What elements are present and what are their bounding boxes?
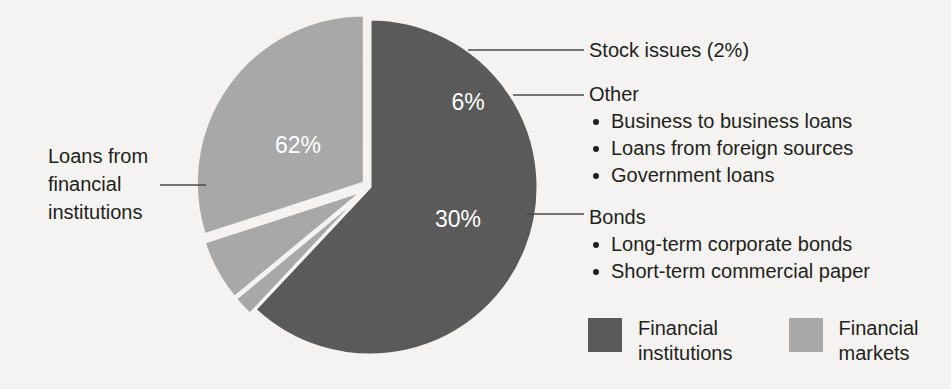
slice-label-institutions: 62% xyxy=(275,132,321,158)
list-item: Short-term commercial paper xyxy=(589,258,870,285)
legend-swatch-icon xyxy=(588,318,622,352)
list-item: Government loans xyxy=(589,162,853,189)
bullet-dot-icon xyxy=(593,242,599,248)
callout-other-list: Business to business loans Loans from fo… xyxy=(589,108,853,189)
chart-legend: Financial institutions Financial markets xyxy=(588,316,919,366)
callout-line-2: financial xyxy=(48,170,198,198)
slice-label-other: 6% xyxy=(451,89,484,115)
list-item-label: Long-term corporate bonds xyxy=(611,233,852,255)
list-item-label: Loans from foreign sources xyxy=(611,137,853,159)
callout-line-1: Loans from xyxy=(48,142,198,170)
callout-bonds-list: Long-term corporate bonds Short-term com… xyxy=(589,231,870,285)
callout-bonds-title: Bonds xyxy=(589,205,870,229)
callout-line-3: institutions xyxy=(48,198,198,226)
bullet-dot-icon xyxy=(593,146,599,152)
callout-bonds: Bonds Long-term corporate bonds Short-te… xyxy=(589,205,870,285)
list-item: Business to business loans xyxy=(589,108,853,135)
list-item: Loans from foreign sources xyxy=(589,135,853,162)
legend-item-label: Financial institutions xyxy=(638,316,733,366)
bullet-dot-icon xyxy=(593,269,599,275)
pie-chart-figure: 62% 6% 30% Loans from financial institut… xyxy=(0,0,951,389)
legend-item-financial-institutions[interactable]: Financial institutions xyxy=(588,316,733,366)
bullet-dot-icon xyxy=(593,119,599,125)
callout-stock-issues: Stock issues (2%) xyxy=(589,38,749,62)
slice-label-bonds: 30% xyxy=(435,206,481,232)
list-item-label: Government loans xyxy=(611,164,774,186)
legend-item-financial-markets[interactable]: Financial markets xyxy=(789,316,919,366)
list-item-label: Business to business loans xyxy=(611,110,852,132)
legend-swatch-icon xyxy=(789,318,823,352)
callout-other: Other Business to business loans Loans f… xyxy=(589,82,853,189)
legend-item-label: Financial markets xyxy=(839,316,919,366)
callout-stock-issues-title: Stock issues (2%) xyxy=(589,38,749,62)
list-item: Long-term corporate bonds xyxy=(589,231,870,258)
bullet-dot-icon xyxy=(593,173,599,179)
callout-loans-from-financial-institutions: Loans from financial institutions xyxy=(48,142,198,226)
list-item-label: Short-term commercial paper xyxy=(611,260,870,282)
callout-other-title: Other xyxy=(589,82,853,106)
